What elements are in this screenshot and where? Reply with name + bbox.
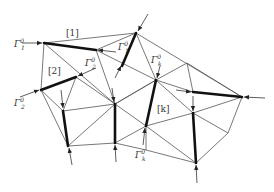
label-subdomain-1: [1] (66, 28, 79, 38)
label-gamma2-left: Γ02 (13, 96, 25, 110)
mesh-edges (41, 33, 242, 163)
label-gamma2-mid: Γ02 (84, 56, 96, 70)
label-gammak-bottom: Γ0k (134, 148, 146, 162)
label-gamma1-mid: Γ01 (117, 40, 129, 54)
mesh-diagram: [1] [2] [k] Γ01 Γ01 Γ02 Γ02 Γ0k Γ0k (0, 0, 274, 192)
label-gamma1-left: Γ01 (13, 37, 25, 51)
label-subdomain-k: [k] (157, 104, 169, 114)
label-subdomain-2: [2] (48, 66, 61, 76)
label-gammak-top: Γ0k (150, 53, 162, 67)
